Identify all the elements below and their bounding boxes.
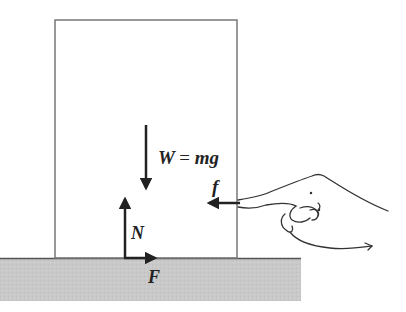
finger-friction-label: f	[212, 177, 218, 196]
ground-friction-label: F	[148, 268, 160, 286]
weight-symbol: W	[158, 147, 175, 168]
gravity-symbol: g	[210, 147, 220, 168]
normal-label: N	[131, 224, 144, 242]
free-body-diagram: W = mg f N F	[0, 0, 406, 312]
hand-illustration	[238, 175, 388, 251]
equals-sign: =	[179, 147, 190, 168]
weight-label: W = mg	[158, 148, 219, 167]
mass-symbol: m	[195, 147, 210, 168]
